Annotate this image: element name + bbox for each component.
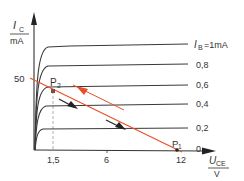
curve-ib-0-2 bbox=[35, 128, 188, 150]
arrow-p1-to-p2 bbox=[73, 85, 124, 110]
svg-text:I: I bbox=[13, 19, 16, 31]
svg-text:2: 2 bbox=[57, 82, 61, 89]
x-tick-1-5: 1,5 bbox=[47, 155, 60, 165]
svg-text:CE: CE bbox=[216, 160, 226, 167]
curve-labels: I B =1mA 0,8 0,6 0,4 0,2 0 bbox=[194, 39, 228, 154]
x-axis bbox=[34, 148, 216, 155]
x-axis-label: U CE V bbox=[208, 155, 229, 179]
svg-text:B: B bbox=[198, 44, 203, 51]
arrow-p2-to-p1 bbox=[59, 99, 126, 130]
svg-text:mA: mA bbox=[10, 36, 24, 46]
black-arrow-icon bbox=[67, 101, 78, 109]
point-p1: P 1 bbox=[172, 138, 182, 152]
curve-ib-1ma bbox=[35, 44, 188, 150]
svg-text:1: 1 bbox=[178, 143, 182, 150]
svg-text:=1mA: =1mA bbox=[204, 40, 228, 50]
orange-arrow-icon bbox=[76, 86, 88, 95]
svg-text:I: I bbox=[194, 39, 197, 50]
svg-text:0,4: 0,4 bbox=[196, 99, 209, 109]
curve-ib-0-8 bbox=[35, 64, 188, 150]
svg-text:V: V bbox=[214, 169, 220, 179]
x-tick-12: 12 bbox=[176, 155, 186, 165]
svg-text:0: 0 bbox=[196, 144, 201, 154]
x-tick-6: 6 bbox=[104, 155, 109, 165]
y-tick-50: 50 bbox=[14, 73, 25, 84]
characteristic-curves bbox=[35, 44, 188, 150]
svg-text:0,6: 0,6 bbox=[196, 80, 209, 90]
y-axis-label: I C mA bbox=[10, 19, 29, 46]
svg-text:0,8: 0,8 bbox=[196, 60, 209, 70]
y-axis-arrow-icon bbox=[31, 12, 37, 25]
svg-text:P: P bbox=[50, 77, 57, 88]
svg-text:0,2: 0,2 bbox=[196, 123, 209, 133]
svg-text:C: C bbox=[19, 26, 24, 33]
transistor-characteristic-diagram: I C mA U CE V 50 1,5 6 12 I B =1mA 0,8 0… bbox=[0, 0, 244, 181]
x-axis-arrow-icon bbox=[202, 148, 216, 155]
